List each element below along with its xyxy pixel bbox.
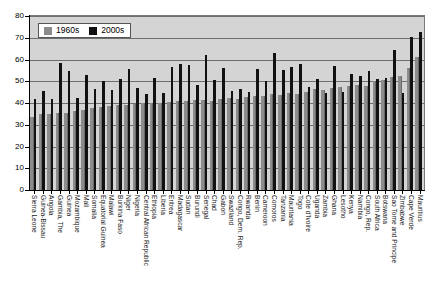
x-axis-tick-label: Kenya: [348, 195, 355, 214]
gray-swatch-icon: [44, 27, 52, 35]
x-axis-label-slot: Congo, Dem. Rep.: [236, 191, 245, 306]
x-axis-tick-mark: [51, 191, 52, 194]
bar-2000s: [333, 66, 336, 190]
x-axis-tick-label: Niger: [125, 195, 132, 211]
x-axis-tick-mark: [351, 191, 352, 194]
bar-group: [373, 16, 382, 190]
x-axis-label-slot: Uganda: [313, 191, 322, 306]
x-axis-tick-label: Zimbabwe: [399, 195, 406, 225]
x-axis-label-slot: Cote d'Ivoire: [304, 191, 313, 306]
x-axis-tick-label: Congo, Dem. Rep.: [236, 195, 243, 250]
bar-2000s: [222, 68, 225, 190]
bar-2000s: [179, 64, 182, 190]
bar-2000s: [308, 87, 311, 190]
bar-2000s: [42, 91, 45, 190]
bar-2000s: [282, 70, 285, 190]
y-axis-tick-label: 10: [15, 164, 24, 172]
x-axis-label-slot: Botswana: [381, 191, 390, 306]
x-axis-tick-label: Senegal: [202, 195, 209, 219]
bar-group: [270, 16, 279, 190]
x-axis-tick-label: Burkina Faso: [117, 195, 124, 234]
bar-group: [39, 16, 48, 190]
bar-2000s: [119, 79, 122, 190]
x-axis-tick-label: Mali: [82, 195, 89, 207]
bar-2000s: [368, 71, 371, 190]
y-axis-tick-label: 20: [15, 143, 24, 151]
x-axis-tick-label: Gambia, The: [57, 195, 64, 233]
x-axis-label-slot: Nigeria: [133, 191, 142, 306]
x-axis-tick-mark: [34, 191, 35, 194]
bar-2000s: [59, 63, 62, 190]
bar-group: [81, 16, 90, 190]
x-axis-label-slot: Burkina Faso: [116, 191, 125, 306]
x-axis-tick-label: Mauritania: [288, 195, 295, 226]
bar-group: [381, 16, 390, 190]
x-axis-label-slot: Cape Verde: [407, 191, 416, 306]
x-axis-tick-mark: [223, 191, 224, 194]
x-axis-label-slot: Madagascar: [176, 191, 185, 306]
bar-group: [47, 16, 56, 190]
x-axis-tick-mark: [274, 191, 275, 194]
bar-group: [64, 16, 73, 190]
x-axis-tick-label: Cote d'Ivoire: [305, 195, 312, 232]
x-axis-tick-mark: [120, 191, 121, 194]
x-axis-tick-mark: [103, 191, 104, 194]
bar-2000s: [153, 78, 156, 190]
bar-group: [278, 16, 287, 190]
x-axis-tick-label: Chad: [211, 195, 218, 211]
x-axis-label-slot: Namibia: [355, 191, 364, 306]
x-axis-tick-label: South Africa: [373, 195, 380, 231]
x-axis-tick-mark: [171, 191, 172, 194]
bar-group: [390, 16, 399, 190]
bar-2000s: [85, 75, 88, 190]
x-axis-tick-mark: [394, 191, 395, 194]
bar-2000s: [94, 89, 97, 190]
bar-group: [116, 16, 125, 190]
bar-group: [141, 16, 150, 190]
x-axis-tick-mark: [154, 191, 155, 194]
bar-group: [338, 16, 347, 190]
x-axis-tick-label: Cameroon: [262, 195, 269, 226]
x-axis-label-slot: Guinea: [64, 191, 73, 306]
bar-2000s: [248, 92, 251, 190]
x-axis-tick-label: Central African Republic: [142, 195, 149, 266]
bar-group: [415, 16, 424, 190]
x-axis-tick-label: Ghana: [331, 195, 338, 215]
bar-group: [124, 16, 133, 190]
x-axis-tick-mark: [283, 191, 284, 194]
x-axis-tick-label: Sao Tome and Principe: [391, 195, 398, 263]
bar-group: [150, 16, 159, 190]
x-axis-label-slot: Sudan: [184, 191, 193, 306]
bar-group: [99, 16, 108, 190]
x-axis-label-slot: Sao Tome and Principe: [390, 191, 399, 306]
x-axis-tick-label: Botswana: [382, 195, 389, 224]
bar-2000s: [299, 64, 302, 190]
x-axis-tick-mark: [343, 191, 344, 194]
bar-group: [330, 16, 339, 190]
x-axis-tick-label: Liberia: [159, 195, 166, 215]
bar-group: [227, 16, 236, 190]
x-axis-label-slot: Malawi: [107, 191, 116, 306]
x-axis-label-slot: Mauritius: [415, 191, 424, 306]
bar-2000s: [196, 85, 199, 190]
x-axis-label-slot: Angola: [47, 191, 56, 306]
x-axis-tick-mark: [111, 191, 112, 194]
x-axis-tick-mark: [308, 191, 309, 194]
bar-2000s: [419, 32, 422, 190]
life-expectancy-bar-chart: 01020304050607080 Sierra LeoneGuinea-Bis…: [0, 0, 434, 308]
x-axis-label-slot: Congo, Rep.: [364, 191, 373, 306]
x-axis-tick-label: Togo: [296, 195, 303, 209]
y-axis-tick-label: 40: [15, 99, 24, 107]
x-axis-label-slot: Kenya: [347, 191, 356, 306]
legend-item-2000s: 2000s: [89, 26, 124, 35]
x-axis-label-slot: Benin: [253, 191, 262, 306]
x-axis-tick-label: Equatorial Guinea: [99, 195, 106, 248]
bar-2000s: [111, 90, 114, 190]
x-axis-label-slot: Zambia: [321, 191, 330, 306]
black-swatch-icon: [89, 27, 97, 35]
x-axis-label-slot: Gambia, The: [56, 191, 65, 306]
x-axis-tick-mark: [325, 191, 326, 194]
y-axis-tick-label: 0: [20, 186, 24, 194]
x-axis-tick-mark: [265, 191, 266, 194]
x-axis-tick-mark: [411, 191, 412, 194]
